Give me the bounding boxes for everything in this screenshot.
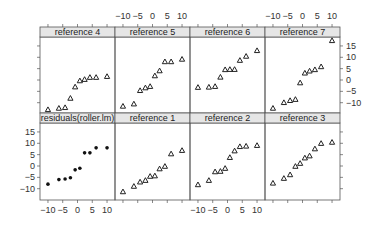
data-point: [105, 146, 109, 150]
data-point: [293, 164, 298, 169]
strip-label: reference 1: [130, 113, 176, 123]
x-tick-label: −10: [190, 205, 205, 215]
data-point: [157, 68, 162, 73]
data-point: [148, 84, 153, 89]
data-point: [223, 166, 228, 171]
data-point: [78, 166, 82, 170]
panel-frame: [40, 123, 115, 200]
data-point: [232, 148, 237, 153]
data-point: [244, 143, 249, 148]
x-tick-label: 5: [90, 205, 95, 215]
y-tick-label: −5: [346, 86, 356, 96]
data-point: [94, 75, 99, 80]
data-point: [56, 106, 61, 111]
panel-frame: [190, 37, 265, 113]
x-tick-label: −5: [208, 205, 218, 215]
panel-frame: [190, 123, 265, 200]
data-point: [45, 107, 50, 112]
data-point: [206, 84, 211, 89]
x-tick-label: 10: [177, 11, 187, 21]
data-point: [212, 84, 217, 89]
data-point: [152, 73, 157, 78]
data-point: [88, 151, 92, 155]
data-point: [237, 58, 242, 63]
y-tick-label: 10: [25, 138, 35, 148]
data-point: [83, 151, 87, 155]
data-point: [73, 168, 77, 172]
data-point: [227, 67, 232, 72]
data-point: [312, 67, 317, 72]
y-tick-label: −10: [346, 98, 361, 108]
data-point: [131, 101, 136, 106]
data-point: [212, 169, 217, 174]
y-tick-label: −10: [20, 184, 35, 194]
data-point: [307, 68, 312, 73]
data-point: [162, 59, 167, 64]
x-tick-label: −5: [58, 205, 68, 215]
data-point: [195, 182, 200, 187]
data-point: [298, 161, 303, 166]
data-point: [287, 172, 292, 177]
panel-frame: [40, 37, 115, 113]
data-point: [62, 105, 67, 110]
strip-label: reference 7: [280, 27, 326, 37]
data-point: [82, 77, 87, 82]
data-point: [218, 169, 223, 174]
strip-label: reference 4: [55, 27, 101, 37]
x-tick-label: −10: [115, 11, 130, 21]
data-point: [237, 144, 242, 149]
data-point: [254, 143, 259, 148]
y-tick-label: 0: [30, 161, 35, 171]
data-point: [94, 146, 98, 150]
strip-label: reference 3: [280, 113, 326, 123]
y-tick-label: 10: [346, 52, 356, 62]
x-tick-label: 0: [300, 11, 305, 21]
data-point: [157, 166, 162, 171]
data-point: [254, 48, 259, 53]
data-point: [319, 64, 324, 69]
data-point: [69, 176, 73, 180]
data-point: [270, 106, 275, 111]
data-point: [281, 100, 286, 105]
data-point: [179, 148, 184, 153]
x-tick-label: 0: [75, 205, 80, 215]
y-tick-label: 15: [346, 41, 356, 51]
strip-label: reference 2: [205, 113, 251, 123]
data-point: [68, 96, 73, 101]
data-point: [137, 179, 142, 184]
y-tick-label: 5: [346, 64, 351, 74]
data-point: [87, 75, 92, 80]
data-point: [244, 54, 249, 59]
x-tick-label: −5: [283, 11, 293, 21]
y-tick-label: 15: [25, 127, 35, 137]
data-point: [57, 178, 61, 182]
data-point: [287, 98, 292, 103]
data-point: [293, 97, 298, 102]
x-tick-label: 5: [165, 11, 170, 21]
y-tick-label: 0: [346, 75, 351, 85]
x-tick-label: 10: [327, 11, 337, 21]
data-point: [298, 80, 303, 85]
x-tick-label: −5: [133, 11, 143, 21]
panel-frame: [265, 123, 340, 200]
strip-label: reference 5: [130, 27, 176, 37]
x-tick-label: 0: [225, 205, 230, 215]
data-point: [104, 74, 109, 79]
data-point: [169, 151, 174, 156]
data-point: [307, 153, 312, 158]
data-point: [137, 88, 142, 93]
data-point: [329, 38, 334, 43]
data-point: [227, 155, 232, 160]
panel-frame: [115, 123, 190, 200]
x-tick-label: 10: [252, 205, 262, 215]
x-tick-label: −10: [265, 11, 280, 21]
data-point: [120, 189, 125, 194]
x-tick-label: 0: [150, 11, 155, 21]
data-point: [179, 57, 184, 62]
data-point: [77, 78, 82, 83]
strip-label: residuals(roller.lm): [41, 113, 115, 123]
data-point: [206, 178, 211, 183]
data-point: [319, 141, 324, 146]
data-point: [143, 85, 148, 90]
data-point: [232, 67, 237, 72]
